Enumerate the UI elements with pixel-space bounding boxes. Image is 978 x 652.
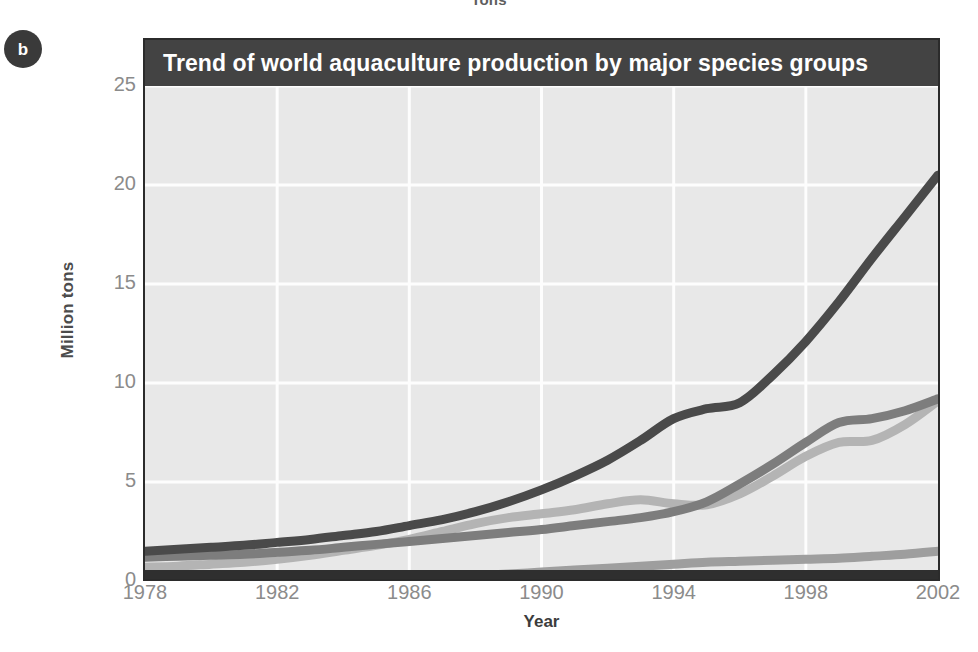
chart-frame: Trend of world aquaculture production by… xyxy=(143,38,940,581)
x-tick-label: 1990 xyxy=(519,582,564,602)
panel-label-badge: b xyxy=(4,30,42,68)
y-axis-tick-labels: 0510152025 xyxy=(78,0,136,652)
x-tick-label: 1982 xyxy=(255,582,300,602)
y-axis-title: Million tons xyxy=(58,230,78,390)
x-tick-label: 2002 xyxy=(916,582,961,602)
x-tick-label: 1998 xyxy=(784,582,829,602)
y-tick-label: 20 xyxy=(84,173,136,193)
y-tick-label: 15 xyxy=(84,272,136,292)
x-tick-label: 1986 xyxy=(387,582,432,602)
y-tick-label: 5 xyxy=(84,470,136,490)
baseline-rule xyxy=(145,570,938,579)
x-tick-label: 1978 xyxy=(123,582,168,602)
line-chart-svg xyxy=(145,86,938,579)
clipped-caption-text: Tons xyxy=(0,0,978,9)
y-tick-label: 25 xyxy=(84,74,136,94)
x-axis-title: Year xyxy=(143,612,940,632)
x-axis-tick-labels: 1978198219861990199419982002 xyxy=(0,582,978,616)
chart-title: Trend of world aquaculture production by… xyxy=(163,50,868,77)
x-tick-label: 1994 xyxy=(651,582,696,602)
chart-title-bar: Trend of world aquaculture production by… xyxy=(145,40,938,86)
y-tick-label: 10 xyxy=(84,371,136,391)
plot-area xyxy=(145,86,938,579)
